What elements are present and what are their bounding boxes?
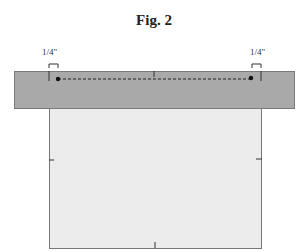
seam-diagram — [0, 0, 308, 252]
right-bracket-icon — [252, 64, 261, 68]
left-dot-icon — [56, 77, 60, 81]
left-bracket-icon — [49, 64, 58, 68]
right-dot-icon — [249, 76, 253, 80]
